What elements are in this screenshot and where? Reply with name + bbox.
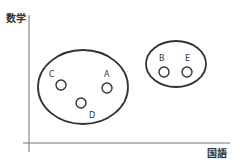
point-label-a: A (104, 70, 110, 79)
point-d (76, 98, 86, 108)
point-label-b: B (159, 54, 165, 63)
point-c (56, 80, 66, 90)
groups: CADBE (38, 41, 206, 124)
point-label-d: D (89, 111, 95, 120)
y-axis-label: 数学 (6, 14, 26, 24)
point-label-c: C (49, 70, 55, 79)
point-e (182, 67, 192, 77)
diagram: CADBE 数学 国語 (0, 0, 240, 166)
diagram-canvas: CADBE (0, 0, 240, 166)
x-axis-label: 国語 (207, 149, 227, 159)
point-label-e: E (185, 54, 190, 63)
point-b (159, 67, 169, 77)
group-right-ellipse (146, 41, 206, 87)
group-left-ellipse (38, 50, 128, 124)
point-a (102, 83, 112, 93)
